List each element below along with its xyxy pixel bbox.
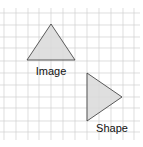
grid [0, 8, 140, 140]
image-triangle [27, 24, 75, 60]
shape-label: Shape [96, 122, 128, 134]
transformation-diagram: Image Shape [0, 0, 143, 147]
image-label: Image [36, 65, 67, 77]
shape-triangle [87, 73, 122, 121]
